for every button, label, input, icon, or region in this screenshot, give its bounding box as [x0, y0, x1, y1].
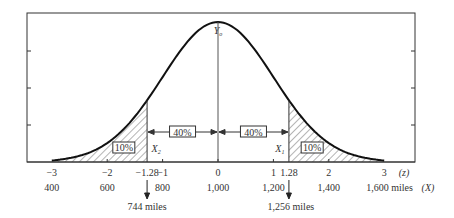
x-tick-label: 600 — [100, 182, 115, 193]
left-cutoff-arrow — [145, 180, 150, 199]
z-tick-label: 2 — [326, 167, 331, 178]
mean-label: Yo — [214, 25, 223, 37]
x-tick-label: 1,000 — [207, 182, 230, 193]
right-cutoff-label: X1 — [274, 143, 284, 155]
x-tick-label: 1,400 — [318, 182, 341, 193]
x-axis: 4006008001,0001,2001,4001,600 miles — [44, 182, 413, 193]
z-tick-label: 0 — [216, 167, 221, 178]
x-tick-label: 800 — [155, 182, 170, 193]
z-tick-label: −3 — [46, 167, 57, 178]
z-tick-label: 1 — [271, 167, 276, 178]
x-tick-label: 1,200 — [262, 182, 285, 193]
frame-ticks — [27, 51, 415, 125]
right-cutoff-arrow — [286, 180, 291, 199]
z-axis-unit-label: (z) — [399, 167, 410, 179]
z-tick-label: −2 — [102, 167, 113, 178]
left-center-percent-label: 40% — [173, 127, 191, 138]
z-tick-label: 1.28 — [280, 167, 298, 178]
right-cutoff-value: 1,256 miles — [268, 201, 315, 212]
z-tick-label: −1 — [157, 167, 168, 178]
x-tick-label: 400 — [44, 182, 59, 193]
right-tail-percent-label: 10% — [303, 142, 321, 153]
left-tail-percent-label: 10% — [115, 142, 133, 153]
left-cutoff-value: 744 miles — [128, 201, 167, 212]
z-tick-label: −1.28 — [136, 167, 159, 178]
z-tick-label: 3 — [382, 167, 387, 178]
x-axis-unit-label: (X) — [422, 182, 435, 194]
right-center-percent-label: 40% — [244, 127, 262, 138]
left-cutoff-label: X2 — [151, 143, 161, 155]
x-tick-label: 1,600 miles — [366, 182, 413, 193]
normal-distribution-diagram: Yo 40% 40% 10% 10% X2 X1 −3−2−1.28−1011.… — [0, 0, 454, 218]
